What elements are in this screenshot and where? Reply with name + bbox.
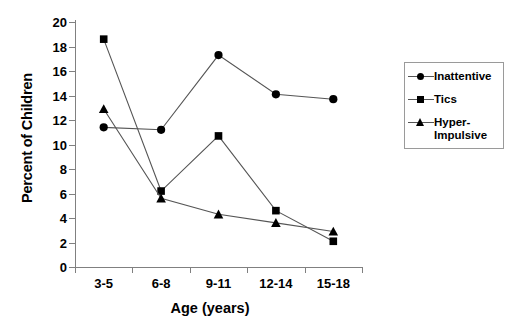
- x-axis-title: Age (years): [60, 300, 360, 316]
- series-plot-area: [0, 0, 510, 331]
- legend-label: Tics: [434, 93, 457, 106]
- triangle-data-point: [156, 194, 166, 203]
- legend-label: Hyper- Impulsive: [434, 116, 487, 141]
- circle-marker-icon: [408, 70, 434, 84]
- triangle-data-point: [99, 104, 109, 113]
- square-data-point: [272, 207, 280, 215]
- legend-item[interactable]: Inattentive: [408, 70, 498, 84]
- series-hyperimpulsive: [99, 104, 338, 235]
- series-line: [104, 55, 334, 130]
- legend-item[interactable]: Hyper- Impulsive: [408, 116, 498, 141]
- triangle-marker-icon: [408, 116, 434, 130]
- square-marker-icon: [408, 93, 434, 107]
- square-data-point: [215, 132, 223, 140]
- chart-legend: InattentiveTicsHyper- Impulsive: [404, 62, 504, 149]
- circle-data-point: [272, 90, 280, 98]
- legend-label: Inattentive: [434, 70, 492, 83]
- circle-data-point: [214, 51, 222, 59]
- chart-figure: Percent of Children 02468101214161820 3-…: [0, 0, 510, 331]
- triangle-data-point: [214, 210, 224, 219]
- circle-data-point: [157, 126, 165, 134]
- legend-item[interactable]: Tics: [408, 93, 498, 107]
- circle-data-point: [329, 95, 337, 103]
- circle-data-point: [100, 123, 108, 131]
- square-data-point: [330, 237, 338, 245]
- square-data-point: [100, 35, 108, 43]
